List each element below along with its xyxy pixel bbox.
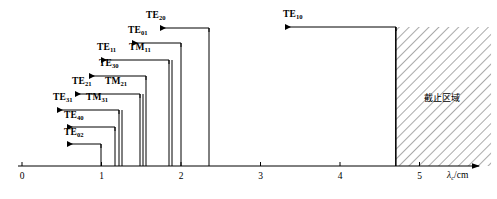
x-tick-label-5: 5 bbox=[405, 172, 435, 182]
figure-canvas bbox=[0, 0, 497, 199]
mode-label-te31: TE31 bbox=[53, 93, 72, 103]
mode-label-subscript: 31 bbox=[66, 96, 73, 103]
x-axis-title: λc/cm bbox=[447, 171, 468, 181]
mode-label-subscript: 21 bbox=[85, 80, 92, 87]
mode-label-subscript: 11 bbox=[110, 46, 116, 53]
axis-title-subscript: c bbox=[451, 174, 454, 181]
mode-label-te11: TE11 bbox=[97, 43, 116, 53]
mode-label-tm31: TM31 bbox=[86, 93, 108, 103]
mode-label-te30: TE30 bbox=[99, 59, 118, 69]
mode-label-subscript: 40 bbox=[77, 114, 84, 121]
mode-label-name: TE bbox=[72, 76, 85, 86]
mode-label-subscript: 02 bbox=[77, 131, 84, 138]
mode-label-name: TE bbox=[53, 92, 66, 102]
mode-label-subscript: 01 bbox=[141, 29, 148, 36]
mode-label-te40: TE40 bbox=[64, 111, 83, 121]
waveguide-cutoff-figure: TE10TE20TE01TE11TM11TE30TE21TM21TE31TM31… bbox=[0, 0, 497, 199]
mode-label-name: TM bbox=[129, 42, 145, 52]
axis-title-unit: /cm bbox=[454, 170, 468, 180]
mode-label-te01: TE01 bbox=[128, 26, 147, 36]
mode-label-subscript: 10 bbox=[296, 13, 303, 20]
mode-label-te10: TE10 bbox=[283, 10, 302, 20]
mode-label-name: TE bbox=[64, 110, 77, 120]
mode-label-subscript: 31 bbox=[102, 96, 109, 103]
mode-label-name: TE bbox=[283, 9, 296, 19]
mode-label-name: TM bbox=[86, 92, 102, 102]
mode-label-te21: TE21 bbox=[72, 77, 91, 87]
mode-label-tm21: TM21 bbox=[105, 77, 127, 87]
mode-label-subscript: 20 bbox=[159, 14, 166, 21]
mode-label-name: TE bbox=[97, 42, 110, 52]
cutoff-region-label: 截止区域 bbox=[424, 94, 460, 103]
mode-label-subscript: 11 bbox=[145, 46, 151, 53]
mode-label-te02: TE02 bbox=[64, 128, 83, 138]
x-tick-label-0: 0 bbox=[7, 172, 37, 182]
mode-label-name: TE bbox=[146, 10, 159, 20]
x-tick-label-2: 2 bbox=[166, 172, 196, 182]
mode-label-te20: TE20 bbox=[146, 11, 165, 21]
mode-label-subscript: 21 bbox=[121, 80, 128, 87]
x-tick-label-4: 4 bbox=[325, 172, 355, 182]
mode-label-name: TE bbox=[99, 58, 112, 68]
mode-label-name: TE bbox=[64, 127, 77, 137]
mode-label-name: TM bbox=[105, 76, 121, 86]
mode-label-subscript: 30 bbox=[112, 62, 119, 69]
x-tick-label-1: 1 bbox=[87, 172, 117, 182]
mode-label-tm11: TM11 bbox=[129, 43, 151, 53]
mode-label-name: TE bbox=[128, 25, 141, 35]
x-tick-label-3: 3 bbox=[246, 172, 276, 182]
